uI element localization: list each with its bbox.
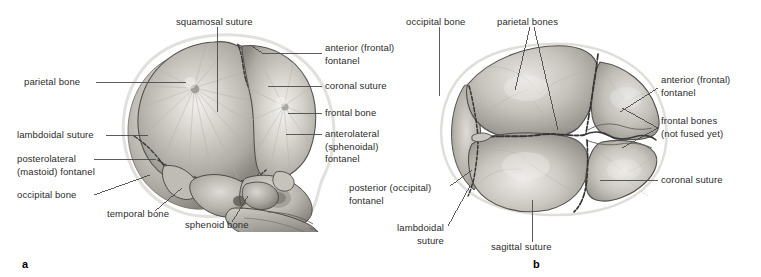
label-squamosal-suture: squamosal suture [176, 16, 253, 29]
label-sphenoid-bone: sphenoid bone [185, 219, 249, 232]
panel-letter-b: b [533, 258, 540, 270]
label-coronal-suture-a: coronal suture [325, 80, 387, 93]
label-lambdoidal-suture-a: lambdoidal suture [17, 129, 94, 142]
label-occipital-bone-a: occipital bone [17, 189, 77, 202]
label-lambdoidal-suture-b: lambdoidal suture [366, 222, 444, 247]
label-coronal-suture-b: coronal suture [661, 174, 723, 187]
label-parietal-bone: parietal bone [24, 76, 80, 89]
label-anterior-fontanel-b: anterior (frontal) fontanel [661, 74, 730, 99]
label-posterolateral-fontanel: posterolateral (mastoid) fontanel [17, 153, 95, 178]
panel-b-illustration [438, 40, 676, 220]
label-anterolateral-fontanel: anterolateral (sphenoidal) fontanel [325, 128, 379, 166]
label-occipital-bone-b: occipital bone [406, 16, 466, 29]
panel-letter-a: a [22, 258, 28, 270]
label-temporal-bone: temporal bone [107, 208, 169, 221]
label-posterior-fontanel: posterior (occipital) fontanel [349, 182, 431, 207]
fetal-skull-figure: squamosal suture anterior (frontal) font… [0, 0, 761, 277]
label-anterior-fontanel-a: anterior (frontal) fontanel [325, 42, 394, 67]
label-sagittal-suture: sagittal suture [491, 241, 552, 254]
label-frontal-bones: frontal bones (not fused yet) [661, 115, 723, 140]
label-parietal-bones: parietal bones [497, 16, 558, 29]
label-frontal-bone: frontal bone [325, 107, 376, 120]
panel-a-illustration [118, 32, 348, 232]
